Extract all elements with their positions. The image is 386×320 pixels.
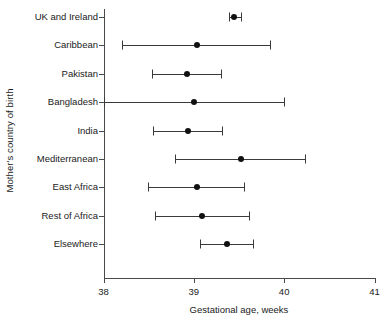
- data-point-marker: [185, 128, 191, 134]
- error-bar-cap-high: [253, 240, 254, 249]
- x-axis-tick-label: 40: [279, 286, 290, 297]
- x-axis-tick-label: 39: [189, 286, 200, 297]
- x-axis-tick-label: 41: [369, 286, 380, 297]
- error-bar-cap-low: [153, 126, 154, 135]
- error-bar-cap-low: [175, 155, 176, 164]
- data-point-marker: [191, 99, 197, 105]
- plot-area: 38394041Gestational age, weeks: [0, 0, 386, 320]
- x-axis-tick: [104, 278, 105, 283]
- y-axis-tick: [99, 45, 104, 46]
- data-point-marker: [199, 213, 205, 219]
- y-axis-tick: [99, 187, 104, 188]
- error-bar-cap-low: [148, 183, 149, 192]
- error-bar-cap-high: [241, 13, 242, 22]
- y-axis-line: [104, 9, 105, 278]
- y-axis-tick: [99, 159, 104, 160]
- data-point-marker: [194, 42, 200, 48]
- error-bar-cap-low: [229, 13, 230, 22]
- error-bar-cap-low: [122, 41, 123, 50]
- data-point-marker: [224, 241, 230, 247]
- data-point-marker: [184, 71, 190, 77]
- error-bar-cap-low: [152, 69, 153, 78]
- y-axis-tick: [99, 17, 104, 18]
- chart-container: Mother's country of birth UK and Ireland…: [0, 0, 386, 320]
- data-point-marker: [231, 14, 237, 20]
- x-axis-tick: [194, 278, 195, 283]
- y-axis-tick: [99, 244, 104, 245]
- x-axis-tick: [375, 278, 376, 283]
- error-bar-cap-low: [104, 98, 105, 107]
- error-bar-cap-low: [200, 240, 201, 249]
- error-bar-cap-high: [270, 41, 271, 50]
- x-axis-line: [104, 278, 375, 279]
- error-bar-cap-high: [305, 155, 306, 164]
- y-axis-tick: [99, 131, 104, 132]
- x-axis-title: Gestational age, weeks: [190, 304, 289, 315]
- data-point-marker: [194, 184, 200, 190]
- error-bar-cap-high: [222, 126, 223, 135]
- error-bar-cap-high: [284, 98, 285, 107]
- data-point-marker: [238, 156, 244, 162]
- y-axis-tick: [99, 74, 104, 75]
- error-bar-cap-high: [249, 211, 250, 220]
- error-bar-cap-low: [155, 211, 156, 220]
- x-axis-tick: [284, 278, 285, 283]
- error-bar-cap-high: [221, 69, 222, 78]
- y-axis-tick: [99, 216, 104, 217]
- error-bar-cap-high: [244, 183, 245, 192]
- x-axis-tick-label: 38: [98, 286, 109, 297]
